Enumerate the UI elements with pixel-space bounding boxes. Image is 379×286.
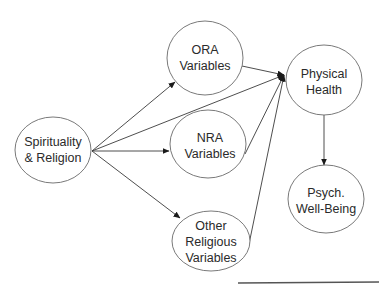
- node-circle: [15, 117, 91, 183]
- node-physical-health: Physical Health: [286, 45, 362, 115]
- edge-other-to-physical-health: [249, 75, 284, 244]
- edge-ora-to-physical-health: [242, 66, 284, 75]
- path-diagram: Spirituality & Religion ORA Variables NR…: [0, 0, 379, 286]
- node-label-line: Psych.: [307, 186, 345, 200]
- node-label-line: Religious: [185, 235, 236, 249]
- node-label-line: ORA: [191, 43, 219, 57]
- node-psych-well-being: Psych. Well-Being: [288, 165, 364, 233]
- node-label-line: Variables: [185, 251, 236, 265]
- edge-nra-to-physical-health: [245, 75, 284, 154]
- node-label-line: Variables: [179, 59, 230, 73]
- node-label-line: Other: [195, 219, 226, 233]
- bottom-rule: [238, 282, 379, 283]
- edge-sr-to-ora: [92, 82, 175, 151]
- node-label-line: Spirituality: [24, 135, 82, 149]
- node-label-line: Variables: [184, 147, 235, 161]
- node-label-line: Well-Being: [296, 202, 356, 216]
- node-other-religious-variables: Other Religious Variables: [172, 211, 250, 271]
- edge-sr-to-other: [92, 151, 180, 218]
- node-circle: [167, 21, 243, 95]
- node-label-line: Physical: [301, 67, 348, 81]
- node-label-line: & Religion: [25, 151, 82, 165]
- node-label-line: Health: [306, 83, 342, 97]
- node-ora-variables: ORA Variables: [167, 21, 243, 95]
- node-label-line: NRA: [197, 131, 224, 145]
- node-nra-variables: NRA Variables: [170, 110, 246, 178]
- node-spirituality-religion: Spirituality & Religion: [15, 117, 91, 183]
